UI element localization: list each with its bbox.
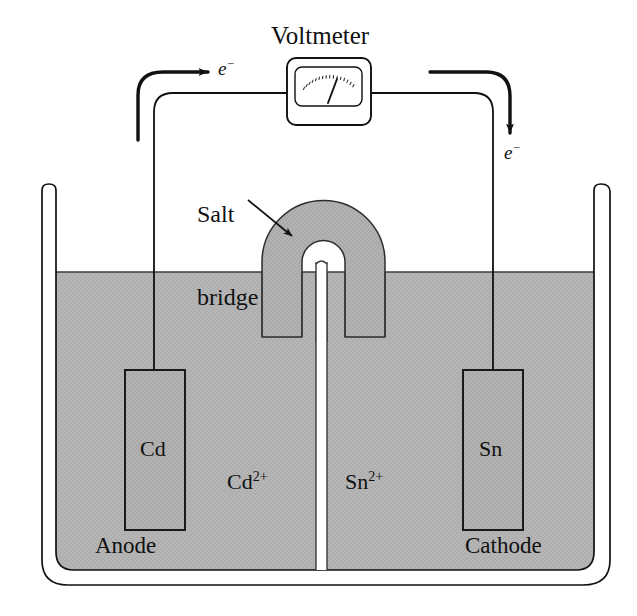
cation-left-symbol: Cd bbox=[227, 469, 253, 494]
cation-right-charge: 2+ bbox=[368, 468, 383, 484]
electron-label-right: e− bbox=[504, 142, 521, 163]
cation-left-charge: 2+ bbox=[253, 468, 268, 484]
salt-bridge bbox=[262, 200, 385, 342]
salt-bridge-label: Salt bridge bbox=[197, 146, 258, 367]
electrochemical-cell-diagram bbox=[0, 0, 637, 616]
cation-left-label: Cd2+ bbox=[227, 470, 268, 495]
electron-charge-right: − bbox=[512, 141, 520, 155]
salt-bridge-label-line2: bridge bbox=[197, 284, 258, 312]
voltmeter[interactable] bbox=[287, 58, 371, 125]
figure-canvas: Voltmeter Salt bridge e− e− Cd Sn Anode … bbox=[0, 0, 637, 616]
electron-flow-arrow-right bbox=[430, 72, 510, 133]
electron-charge-left: − bbox=[226, 57, 234, 71]
cation-right-label: Sn2+ bbox=[345, 470, 383, 495]
cation-right-symbol: Sn bbox=[345, 469, 368, 494]
electron-label-left: e− bbox=[218, 58, 235, 79]
anode-electrode-label: Cd bbox=[140, 437, 166, 462]
electron-flow-arrow-left bbox=[138, 72, 208, 140]
anode-label: Anode bbox=[95, 533, 156, 559]
cathode-label: Cathode bbox=[465, 533, 542, 559]
cathode-electrode-label: Sn bbox=[479, 437, 502, 462]
voltmeter-label: Voltmeter bbox=[271, 22, 369, 50]
salt-bridge-label-line1: Salt bbox=[197, 201, 258, 229]
